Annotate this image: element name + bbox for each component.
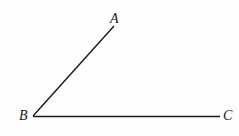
point-label-c: C	[223, 109, 232, 123]
angle-diagram	[0, 0, 239, 136]
diagram-canvas: A B C	[0, 0, 239, 136]
segment-ba	[33, 26, 114, 116]
point-label-b: B	[19, 109, 28, 123]
point-label-a: A	[110, 12, 119, 26]
